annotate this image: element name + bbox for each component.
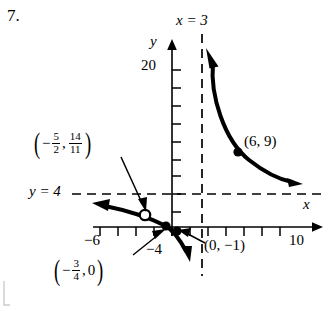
x-axis-label: x	[303, 196, 310, 213]
y-axis-ticks	[172, 70, 181, 212]
curve-right-branch-right-arrow	[287, 178, 303, 187]
y-tick-label-20: 20	[141, 57, 156, 74]
x-tick-label-neg6: −6	[84, 232, 100, 249]
paren-open: (	[34, 132, 40, 154]
y-axis-arrowhead	[167, 39, 177, 50]
fraction-three-quarters: 3 4	[72, 258, 80, 282]
horizontal-asymptote-label: y = 4	[29, 183, 61, 200]
point-label-hole-neg-five-halves: ( − 5 2 , 14 11 )	[32, 131, 93, 155]
minus-sign: −	[42, 135, 50, 152]
curve-right-branch-up-arrow	[206, 48, 219, 69]
minus-sign: −	[62, 262, 70, 279]
comma: ,	[82, 262, 86, 279]
paren-close: )	[85, 132, 91, 154]
curve-left-branch-left-arrow	[92, 199, 110, 211]
point-label-6-9: (6, 9)	[244, 133, 277, 150]
curve-left-branch-down-arrow	[181, 246, 192, 262]
curve-left-branch-upper	[105, 206, 166, 226]
point-marker-neg-three-quarters-zero	[161, 221, 170, 230]
comma: ,	[62, 135, 66, 152]
open-circle-hole-marker	[140, 210, 150, 220]
x-tick-label-neg4: −4	[146, 241, 162, 258]
x-tick-label-10: 10	[289, 232, 304, 249]
graph-drawing	[0, 0, 333, 311]
curve-right-branch	[213, 63, 292, 182]
vertical-asymptote-label: x = 3	[176, 12, 208, 29]
fraction-five-halves: 5 2	[52, 131, 60, 155]
x-axis-arrowhead	[312, 222, 323, 232]
paren-close: )	[97, 259, 103, 281]
leader-line-hole	[121, 157, 142, 203]
y-axis-label: y	[150, 33, 157, 50]
figure-canvas: 7.	[0, 0, 333, 311]
fraction-fourteen-elevenths: 14 11	[69, 131, 82, 155]
point-marker-6-9	[233, 147, 242, 156]
page-bracket-artifact	[4, 281, 10, 305]
zero-value: 0	[88, 262, 96, 279]
paren-open: (	[54, 259, 60, 281]
point-label-neg-three-quarters-zero: ( − 3 4 , 0 )	[52, 258, 105, 282]
point-label-0-neg1: (0, −1)	[204, 237, 245, 254]
